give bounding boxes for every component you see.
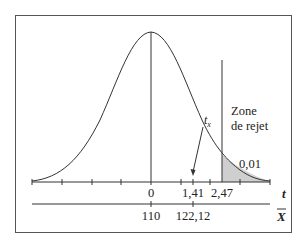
t-stat-arrow [193, 127, 203, 172]
rejection-region-diagram: tx Zone de rejet 0,01 0 1,41 2,47 t 110 … [0, 0, 308, 246]
t-tick-label-0: 0 [148, 186, 154, 200]
arrowhead-icon [191, 169, 196, 176]
xbar-axis-label: X [276, 209, 286, 224]
rejection-zone-label-line2: de rejet [231, 119, 269, 133]
t-tick-label-1: 1,41 [182, 186, 204, 200]
t-tick-label-2: 2,47 [211, 186, 233, 200]
rejection-zone-label-line1: Zone [231, 104, 257, 118]
alpha-label: 0,01 [239, 157, 261, 171]
t-axis-label: t [282, 186, 286, 201]
t-stat-label: tx [204, 113, 211, 129]
xbar-tick-label-1: 122,12 [176, 209, 210, 223]
xbar-tick-label-0: 110 [142, 209, 160, 223]
